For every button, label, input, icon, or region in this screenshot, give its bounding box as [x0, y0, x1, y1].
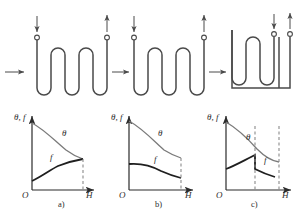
chart-a-x-axis-label: H: [85, 190, 93, 200]
chart-a-origin-label: O: [22, 190, 29, 200]
canvas-background: [0, 0, 301, 210]
serpentine-a-outlet-node: [105, 35, 110, 40]
serpentine-b-inlet-node: [132, 35, 137, 40]
chart-c-y-axis-label: θ, f: [207, 112, 220, 122]
serpentine-a-inlet-node: [35, 35, 40, 40]
serpentine-c-outlet-node: [288, 32, 293, 37]
chart-a-y-axis-label: θ, f: [14, 112, 27, 122]
chart-a-caption: a): [58, 199, 65, 209]
chart-c-caption: c): [251, 199, 258, 209]
chart-b-origin-label: O: [119, 190, 126, 200]
chart-b-label-theta: θ: [158, 128, 163, 138]
chart-c-x-axis-label: H: [281, 190, 289, 200]
chart-c-label-theta: θ: [246, 132, 251, 142]
figure-root: θ, f O H θ f a) θ, f O H θ f b) θ, f O H…: [0, 0, 301, 210]
serpentine-c-inlet-node: [272, 32, 277, 37]
serpentine-b-outlet-node: [202, 35, 207, 40]
chart-b-y-axis-label: θ, f: [111, 112, 124, 122]
chart-b-x-axis-label: H: [184, 190, 192, 200]
chart-a-label-theta: θ: [62, 128, 67, 138]
chart-b-caption: b): [155, 199, 162, 209]
chart-c-origin-label: O: [216, 190, 223, 200]
